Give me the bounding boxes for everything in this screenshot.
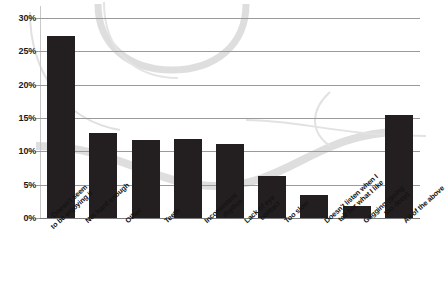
x-axis-labels: Doesn't seemto be enjoying itNot hard en…: [40, 219, 426, 287]
y-axis-tick-label: 5%: [2, 180, 36, 190]
y-axis-tick-label: 15%: [2, 113, 36, 123]
bar: [174, 139, 202, 218]
y-axis: 0%5%10%15%20%25%30%: [0, 18, 36, 218]
y-axis-tick-label: 0%: [2, 213, 36, 223]
y-axis-tick-label: 25%: [2, 46, 36, 56]
bar: [47, 36, 75, 218]
y-axis-tick-label: 30%: [2, 13, 36, 23]
y-axis-tick-label: 20%: [2, 80, 36, 90]
y-axis-tick-label: 10%: [2, 146, 36, 156]
